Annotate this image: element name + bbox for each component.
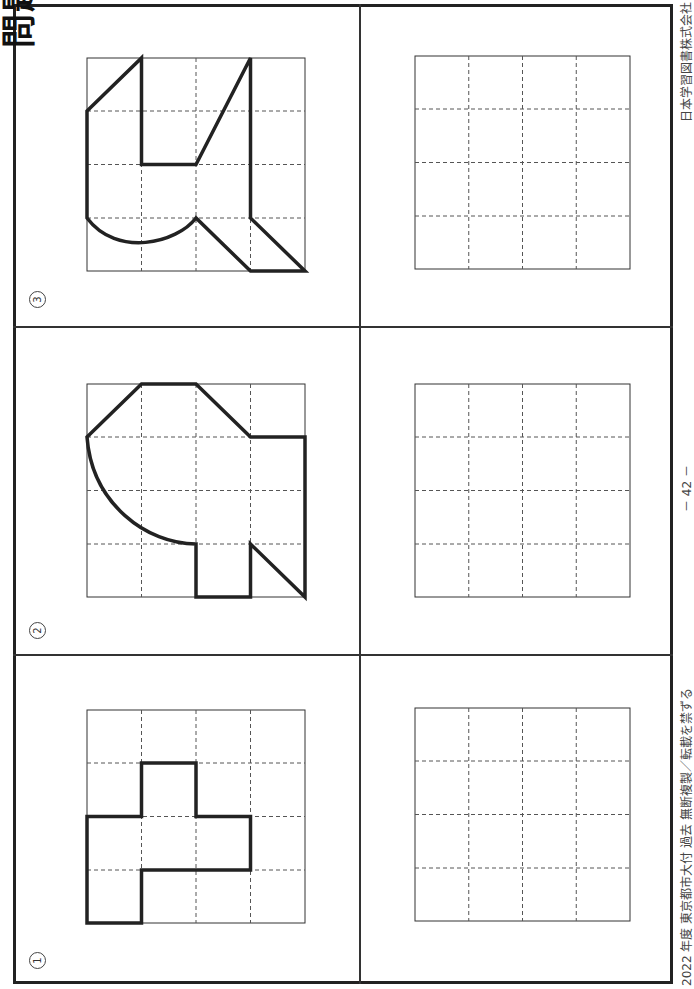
row-divider-2 [13,654,673,656]
shape-1 [87,763,251,923]
page-number: － 42 － [677,465,694,512]
answer-grid-3[interactable] [415,56,635,272]
footer-copyright: 2022 年度 東京都市大付 過去 無断複製／転載を禁ずる [677,688,694,986]
problem-3-figure-grid [87,58,307,274]
page-title: 問題26 [0,0,41,48]
row-divider-1 [13,326,673,328]
column-divider [359,4,361,984]
problem-2-figure-grid [87,384,307,600]
answer-grid-1[interactable] [415,708,635,924]
problem-label-1: 1 [29,952,46,969]
problem-label-2: 2 [29,622,46,639]
footer-publisher: 日本学習図書株式会社 [677,2,694,122]
answer-grid-2[interactable] [415,384,635,600]
problem-1-figure-grid [87,710,307,926]
problem-label-3: 3 [29,291,46,308]
